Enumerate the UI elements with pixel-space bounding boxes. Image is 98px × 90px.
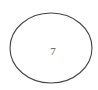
diagram-canvas: 7 [0, 0, 98, 90]
node-label: 7 [50, 45, 56, 57]
